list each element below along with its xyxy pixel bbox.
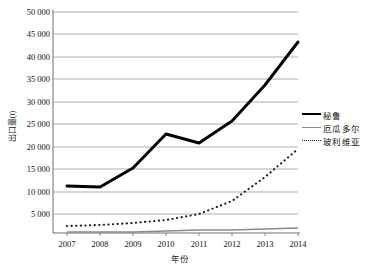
legend-item-bolivia: 玻利维亚 [302, 135, 378, 146]
gridlines [53, 12, 298, 214]
legend-label: 厄瓜多尔 [323, 122, 360, 134]
series-line-peru [67, 42, 298, 187]
x-tick-label: 2014 [278, 239, 318, 249]
legend-label: 玻利维亚 [323, 135, 360, 147]
legend-label: 秘鲁 [323, 109, 342, 121]
legend-line-icon-peru [302, 110, 321, 120]
chart-container: 出口量(t) 50 000 45 000 40 000 35 000 30 00… [0, 0, 378, 274]
series-line-ecuador [67, 228, 298, 232]
legend-item-peru: 秘鲁 [302, 109, 378, 120]
legend-item-ecuador: 厄瓜多尔 [302, 122, 378, 133]
legend-line-icon-bolivia [302, 136, 321, 146]
x-axis-title: 年份 [150, 252, 210, 264]
chart-legend: 秘鲁 厄瓜多尔 玻利维亚 [302, 109, 378, 148]
legend-line-icon-ecuador [302, 123, 321, 133]
